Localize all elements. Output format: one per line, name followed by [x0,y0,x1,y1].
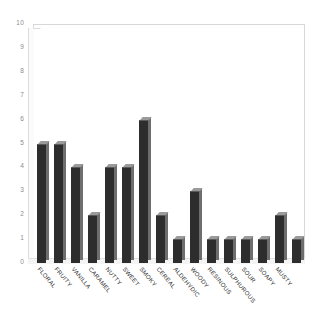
bar [122,167,131,263]
y-tick-label: 1 [20,234,24,241]
bar-side-face [301,236,304,260]
y-tick-label: 4 [20,162,24,169]
y-tick-label: 10 [16,19,24,26]
bar-side-face [233,236,236,260]
y-tick-label: 3 [20,186,24,193]
y-tick-label: 7 [20,90,24,97]
bar [37,144,46,264]
bar-side-face [63,141,66,261]
bar [275,215,284,263]
bar-chart-figure: 012345678910 FLORALFRUITYVANILLACARAMELN… [0,0,328,326]
bar-front-face [88,215,97,263]
bar-front-face [292,239,301,263]
bar-side-face [284,212,287,260]
bar [88,215,97,263]
bar-front-face [122,167,131,263]
bar-side-face [250,236,253,260]
y-tick-label: 5 [20,138,24,145]
bar-front-face [258,239,267,263]
bar [156,215,165,263]
bar-front-face [241,239,250,263]
x-tick-label: SOUR [240,266,257,284]
bar-front-face [71,167,80,263]
bar-side-face [148,117,151,260]
bar-side-face [97,212,100,260]
y-tick-label: 9 [20,42,24,49]
bar-front-face [190,191,199,263]
bar-side-face [131,164,134,260]
bar-front-face [224,239,233,263]
bar-side-face [114,164,117,260]
bar-side-face [165,212,168,260]
bar-side-face [80,164,83,260]
bar-side-face [199,188,202,260]
y-tick-label: 6 [20,114,24,121]
y-tick-label: 8 [20,66,24,73]
bar-front-face [156,215,165,263]
bar-front-face [37,144,46,264]
bar [258,239,267,263]
bar-side-face [182,236,185,260]
bar [292,239,301,263]
bar [54,144,63,264]
bar [71,167,80,263]
y-tick-label: 0 [20,258,24,265]
bar-side-face [216,236,219,260]
x-tick-label: MUSTY [274,266,293,287]
bar [207,239,216,263]
bar-front-face [207,239,216,263]
bar [190,191,199,263]
x-tick-label: SOAPY [257,266,276,287]
bars-container [33,24,305,263]
bar [105,167,114,263]
bar-front-face [173,239,182,263]
x-tick-label: SULPHUROUS [223,266,256,304]
bar-front-face [105,167,114,263]
x-axis: FLORALFRUITYVANILLACARAMELNUTTYSWEETSMOK… [33,266,323,324]
bar-front-face [54,144,63,264]
bar [241,239,250,263]
bar [139,120,148,263]
bar [224,239,233,263]
bar [173,239,182,263]
bar-front-face [275,215,284,263]
bar-front-face [139,120,148,263]
bar-side-face [46,141,49,261]
y-tick-label: 2 [20,210,24,217]
y-axis: 012345678910 [0,22,26,268]
bar-side-face [267,236,270,260]
